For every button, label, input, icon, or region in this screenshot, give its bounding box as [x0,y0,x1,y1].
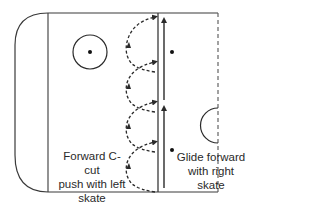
c-cut-3 [126,102,155,152]
label-c-cut-push: Forward C-cut push with left skate [56,149,128,205]
faceoff-dot [88,50,92,54]
c-cut-2 [126,62,155,112]
c-cut-4 [126,142,155,192]
c-cut-paths [126,17,155,192]
label-glide-forward: Glide forward with right skate [176,150,246,192]
center-circle [201,108,219,143]
skate-dot-upper [170,50,174,54]
faceoff-circle [73,35,107,69]
skate-dot-lower [170,148,174,152]
